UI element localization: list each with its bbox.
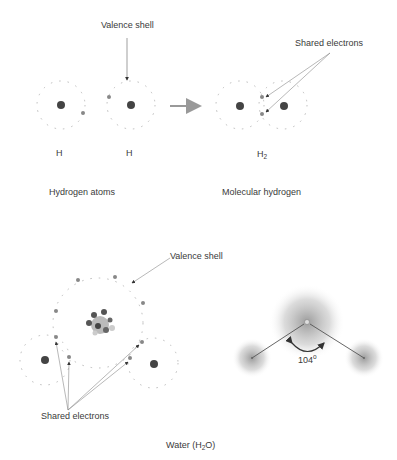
electron-icon <box>107 95 111 99</box>
h-left-label: H <box>56 148 63 158</box>
oxygen-nucleus-icon <box>86 309 115 336</box>
nucleus-icon <box>236 102 244 110</box>
shared-electron-arrow <box>68 362 128 410</box>
shared-electron-arrow <box>266 53 330 97</box>
molecular-hydrogen-caption: Molecular hydrogen <box>222 187 301 197</box>
electron-icon <box>260 112 264 116</box>
hydrogen-atom-left <box>37 81 85 129</box>
shared-electrons-label-bottom: Shared electrons <box>41 411 109 421</box>
nucleus-icon <box>41 356 49 364</box>
valence-shell-label: Valence shell <box>101 20 154 30</box>
nucleus-icon <box>150 360 158 368</box>
molecular-hydrogen <box>216 81 307 129</box>
h-right-label: H <box>126 148 133 158</box>
shared-electrons-label: Shared electrons <box>295 38 363 48</box>
valence-shell-label-bottom: Valence shell <box>170 251 223 261</box>
electron-icon <box>260 95 264 99</box>
shared-electron-arrow <box>68 345 139 410</box>
nucleus-icon <box>280 102 288 110</box>
nucleus-icon <box>127 101 135 109</box>
hydrogen-atom-right <box>107 81 155 129</box>
oxygen-icon <box>305 320 310 325</box>
shared-electron-arrow <box>56 342 68 410</box>
valence-shell-arrow <box>132 258 170 283</box>
nucleus-icon <box>57 101 65 109</box>
water-electron-diagram <box>20 275 178 388</box>
diagram-canvas <box>0 0 397 460</box>
water-caption: Water (H2O) <box>166 440 215 450</box>
h2-label: H2 <box>257 149 267 159</box>
electron-icon <box>81 111 85 115</box>
hydrogen-atoms-caption: Hydrogen atoms <box>49 187 115 197</box>
bond-angle-label: 104o <box>298 355 317 365</box>
shared-electron-arrow <box>266 53 330 112</box>
